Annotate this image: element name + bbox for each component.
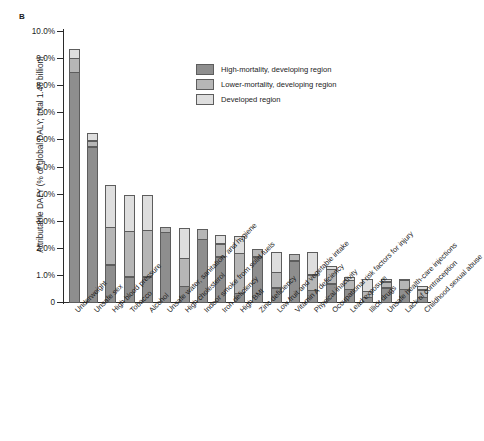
y-tick-mark bbox=[57, 275, 63, 276]
legend-item-dev: Developed region bbox=[196, 94, 337, 105]
legend: High-mortality, developing regionLower-m… bbox=[196, 64, 337, 109]
y-tick-mark bbox=[57, 248, 63, 249]
y-tick-mark bbox=[57, 112, 63, 113]
legend-swatch-high-icon bbox=[196, 64, 214, 75]
legend-swatch-lower-icon bbox=[196, 79, 214, 90]
legend-label: Developed region bbox=[221, 95, 281, 104]
y-tick-mark bbox=[57, 31, 63, 32]
y-tick-mark bbox=[57, 302, 63, 303]
y-tick-mark bbox=[57, 167, 63, 168]
y-tick-mark bbox=[57, 85, 63, 86]
y-tick-mark bbox=[57, 139, 63, 140]
legend-swatch-dev-icon bbox=[196, 94, 214, 105]
legend-label: Lower-mortality, developing region bbox=[221, 80, 337, 89]
legend-item-high: High-mortality, developing region bbox=[196, 64, 337, 75]
legend-label: High-mortality, developing region bbox=[221, 65, 331, 74]
y-tick-mark bbox=[57, 194, 63, 195]
legend-item-lower: Lower-mortality, developing region bbox=[196, 79, 337, 90]
y-tick-mark bbox=[57, 58, 63, 59]
y-tick-mark bbox=[57, 221, 63, 222]
